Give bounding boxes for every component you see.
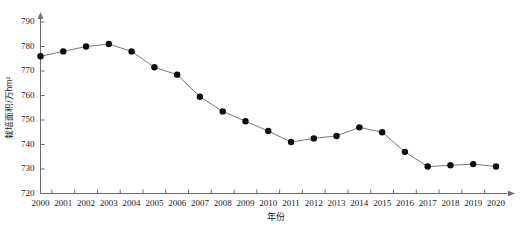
y-tick-label: 790 [0,17,35,26]
data-point-marker [311,135,317,141]
y-tick-label: 750 [0,115,35,124]
y-tick-label: 770 [0,66,35,75]
y-axis-title: 栽培面积/万hm² [4,77,14,139]
data-point-marker [402,149,408,155]
tick-marks-group [41,22,485,194]
data-point-marker [128,48,134,54]
chart-container: 栽培面积/万hm²年份 720730740750760770780790 200… [0,0,526,235]
x-tick-label: 2020 [481,199,511,208]
data-point-marker [493,163,499,169]
data-point-marker [265,128,271,134]
data-point-marker [242,118,248,124]
y-tick-label: 780 [0,42,35,51]
data-point-marker [288,139,294,145]
data-point-marker [60,48,66,54]
axes-group [38,12,515,196]
data-series-group [37,41,499,170]
y-tick-label: 740 [0,140,35,149]
data-point-marker [333,133,339,139]
data-point-marker [37,53,43,59]
data-point-marker [470,161,476,167]
data-point-marker [447,162,453,168]
data-point-marker [220,108,226,114]
data-point-marker [106,41,112,47]
data-point-marker [379,129,385,135]
y-tick-label: 720 [0,189,35,198]
y-axis-arrow-icon [38,12,44,19]
data-point-marker [197,94,203,100]
data-point-marker [151,64,157,70]
x-axis-arrow-icon [508,191,515,197]
y-tick-label: 730 [0,164,35,173]
x-axis-title: 年份 [267,211,285,222]
series-line-path [41,44,497,167]
data-point-marker [424,163,430,169]
data-point-marker [83,43,89,49]
data-point-marker [356,124,362,130]
data-point-marker [174,71,180,77]
y-tick-label: 760 [0,91,35,100]
